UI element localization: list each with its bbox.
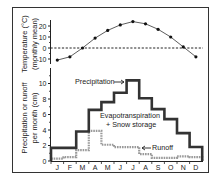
month-label: J: [56, 164, 60, 171]
month-label: S: [156, 164, 161, 171]
precip-ylabel: Precipitation or runoff: [20, 82, 29, 154]
temperature-point: [68, 55, 71, 58]
precip-tick-label: 6: [43, 111, 47, 118]
month-label: O: [168, 164, 174, 171]
month-label: N: [181, 164, 186, 171]
temp-tick-label: 0: [43, 45, 47, 52]
temperature-point: [81, 46, 84, 49]
temperature-point: [157, 28, 160, 31]
temperature-point: [182, 45, 185, 48]
month-label: M: [105, 164, 111, 171]
precip-tick-label: 0: [43, 158, 47, 165]
temperature-point: [56, 59, 59, 62]
month-label: J: [131, 164, 135, 171]
annotation-snow-storage: + Snow storage: [106, 120, 156, 129]
annotation-runoff: Runoff: [152, 143, 173, 152]
temperature-point: [119, 23, 122, 26]
annotation-evapotranspiration: Evapotranspiration: [100, 111, 160, 120]
month-label: D: [193, 164, 198, 171]
month-label: A: [143, 164, 148, 171]
temp-ylabel: Temperature (°C): [20, 15, 29, 73]
temperature-point: [131, 20, 134, 23]
month-label: A: [93, 164, 98, 171]
temperature-point: [106, 29, 109, 32]
precip-tick-label: 2: [43, 142, 47, 149]
annotation-precipitation: Precipitation: [75, 77, 115, 86]
temperature-point: [144, 22, 147, 25]
temperature-point: [169, 35, 172, 38]
temp-tick-label: -10: [36, 56, 46, 63]
month-label: M: [80, 164, 86, 171]
precip-tick-label: 4: [43, 127, 47, 134]
temp-tick-label: 20: [39, 23, 47, 30]
precip-tick-label: 10: [39, 80, 47, 87]
precip-tick-label: 8: [43, 96, 47, 103]
temperature-point: [94, 37, 97, 40]
temp-tick-label: 10: [39, 34, 47, 41]
month-label: F: [68, 164, 72, 171]
temperature-point: [194, 55, 197, 58]
precip-ylabel2: per month (cm): [30, 92, 39, 143]
month-label: J: [119, 164, 123, 171]
chart-figure: Temperature (°C) (monthly mean) Precipit…: [0, 0, 219, 185]
